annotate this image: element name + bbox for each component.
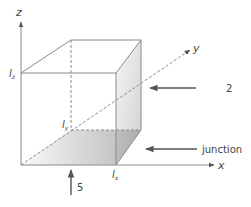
arrow-junction-label: junction — [201, 144, 242, 155]
bottom-face — [21, 130, 141, 165]
z-axis-label: z — [15, 6, 22, 19]
y-axis-label: y — [192, 42, 200, 55]
lz-label: lz — [9, 68, 16, 80]
x-axis-label: x — [217, 159, 225, 172]
cube-diagram: z y x lz ly lx 2 junction 5 — [0, 0, 251, 207]
arrow-5-label: 5 — [77, 182, 83, 193]
ly-label: ly — [62, 119, 69, 132]
lx-label: lx — [112, 169, 119, 181]
arrow-2-label: 2 — [226, 83, 232, 94]
